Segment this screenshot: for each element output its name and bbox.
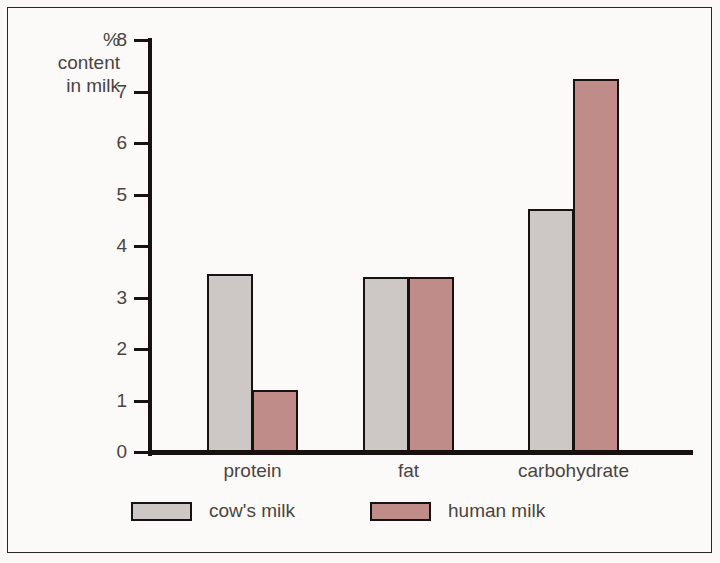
legend-item-human-milk: human milk	[370, 500, 545, 522]
bar-carbohydrate-human-milk	[573, 79, 619, 452]
x-axis-label-fat: fat	[319, 461, 499, 482]
bar-protein-cow-s-milk	[207, 274, 253, 452]
chart-legend: cow's milkhuman milk	[0, 500, 720, 540]
chart-figure: % content in milk 012345678 proteinfatca…	[0, 0, 720, 563]
plot-area: % content in milk 012345678 proteinfatca…	[0, 0, 720, 563]
bar-carbohydrate-cow-s-milk	[528, 209, 574, 452]
x-axis-label-protein: protein	[163, 461, 343, 482]
bar-fat-human-milk	[408, 277, 454, 452]
bar-group-container	[0, 0, 720, 452]
bar-fat-cow-s-milk	[363, 277, 409, 452]
legend-swatch	[370, 502, 431, 521]
legend-item-cow-s-milk: cow's milk	[131, 500, 295, 522]
legend-swatch	[131, 502, 192, 521]
x-axis-label-carbohydrate: carbohydrate	[484, 461, 664, 482]
legend-label: human milk	[448, 500, 545, 522]
bar-protein-human-milk	[252, 390, 298, 452]
legend-label: cow's milk	[209, 500, 295, 522]
